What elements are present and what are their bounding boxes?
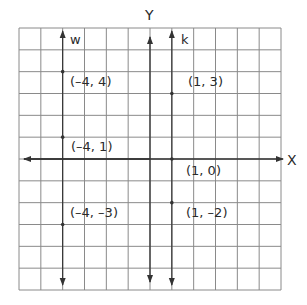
point-label: (–4, 1) xyxy=(71,140,112,153)
point-label: (1, 3) xyxy=(188,75,223,88)
line-k-label: k xyxy=(181,33,189,46)
x-axis-label: X xyxy=(287,153,297,167)
grid-svg xyxy=(0,0,307,305)
coordinate-plane-diagram: Y X w k (–4, 4) (–4, 1) (–4, –3) (1, 3) … xyxy=(0,0,307,305)
vertical-lines xyxy=(63,31,172,285)
line-w-label: w xyxy=(70,33,81,46)
point-label: (–4, 4) xyxy=(70,75,111,88)
point-label: (–4, –3) xyxy=(70,206,118,219)
point-label: (1, –2) xyxy=(186,206,227,219)
point-label: (1, 0) xyxy=(186,164,221,177)
y-axis-label: Y xyxy=(145,8,154,22)
